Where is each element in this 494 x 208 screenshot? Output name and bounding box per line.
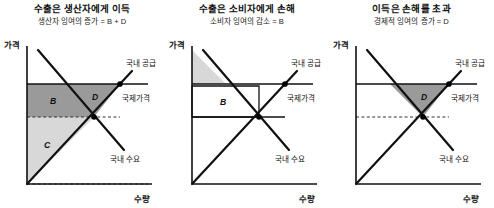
equilibrium-dot [91, 114, 97, 120]
world-price-label: 국제가격 [287, 93, 315, 103]
x-axis-label: 수량 [134, 194, 150, 204]
consumer-surplus-after-shape [192, 50, 226, 84]
panel-3-plot: D 가격 수량 국내 공급 국제가격 국내 수요 [329, 38, 494, 208]
demand-curve-label: 국내 수요 [275, 155, 305, 164]
panel-2-title: 수출은 소비자에게 손해 [165, 4, 330, 15]
region-d-label: D [92, 92, 98, 102]
demand-curve [203, 50, 289, 150]
panel-3-heading-group: 이득은 손해를 초과 경제적 잉여의 증가 = D [329, 4, 494, 27]
region-b-label: B [219, 97, 225, 107]
panel-1-title: 수출은 생산자에게 이득 [0, 4, 165, 15]
export-quantity-dot [446, 81, 452, 87]
demand-curve-label: 국내 수요 [439, 155, 469, 164]
region-c-label: C [44, 140, 51, 150]
supply-curve-label: 국내 공급 [455, 59, 485, 68]
y-axis-label: 가격 [4, 40, 20, 50]
welfare-effects-figure: 수출은 생산자에게 이득 생산자 잉여의 증가 = B + D [0, 0, 494, 208]
supply-curve-label: 국내 공급 [126, 59, 156, 68]
world-price-label: 국제가격 [122, 93, 150, 103]
y-axis-label: 가격 [169, 40, 185, 50]
panel-1-plot: B D C 가격 수량 국내 공급 국제가격 국내 수요 [0, 38, 165, 208]
panel-producer-gain: 수출은 생산자에게 이득 생산자 잉여의 증가 = B + D [0, 0, 165, 208]
panel-2-subtitle: 소비자 잉여의 감소 = B [165, 18, 330, 27]
export-quantity-dot [117, 81, 123, 87]
demand-curve-label: 국내 수요 [110, 155, 140, 164]
region-d-label: D [421, 92, 427, 102]
supply-curve [192, 71, 297, 184]
supply-curve-label: 국내 공급 [291, 59, 321, 68]
x-axis-label: 수량 [299, 194, 315, 204]
panel-net-gain: 이득은 손해를 초과 경제적 잉여의 증가 = D [329, 0, 494, 208]
panel-1-subtitle: 생산자 잉여의 증가 = B + D [0, 18, 165, 27]
export-quantity-dot [282, 81, 288, 87]
equilibrium-dot [256, 114, 262, 120]
y-axis-label: 가격 [333, 40, 349, 50]
demand-curve [367, 50, 453, 150]
x-axis-label: 수량 [463, 194, 479, 204]
panel-2-plot: B 가격 수량 국내 공급 국제가격 국내 수요 [165, 38, 330, 208]
panel-2-heading-group: 수출은 소비자에게 손해 소비자 잉여의 감소 = B [165, 4, 330, 27]
panel-3-title: 이득은 손해를 초과 [329, 4, 494, 15]
equilibrium-dot [420, 114, 426, 120]
region-b-label: B [50, 96, 56, 106]
panel-consumer-loss: 수출은 소비자에게 손해 소비자 잉여의 감소 = B [165, 0, 330, 208]
panel-3-subtitle: 경제적 잉여의 증가 = D [329, 18, 494, 27]
panel-1-heading-group: 수출은 생산자에게 이득 생산자 잉여의 증가 = B + D [0, 4, 165, 27]
world-price-label: 국제가격 [451, 93, 479, 103]
